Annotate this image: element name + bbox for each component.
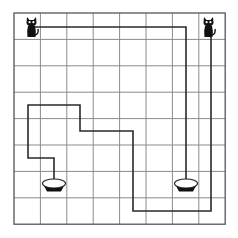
maze-puzzle [0,0,238,238]
cat-icon [204,17,216,37]
maze-canvas [0,0,238,238]
bowl-icon [43,179,66,192]
grid [14,13,225,224]
path-left-cat [35,27,186,179]
bowl-icon [175,179,198,192]
